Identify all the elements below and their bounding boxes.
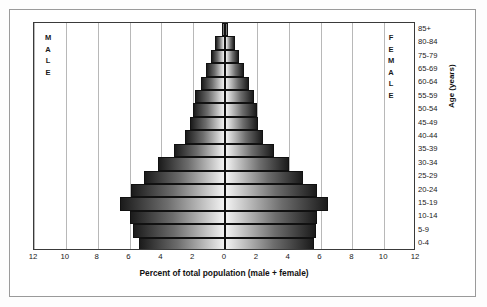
- bar-male: [144, 171, 225, 184]
- bar-female: [225, 90, 254, 103]
- female-side-label: FEMALE: [385, 32, 397, 101]
- bar-female: [225, 36, 235, 49]
- x-tick-label: 2: [254, 252, 258, 261]
- age-tick-label: 35-39: [418, 143, 437, 155]
- x-tick-label: 12: [411, 252, 420, 261]
- x-tick-label: 0: [222, 252, 226, 261]
- bar-row: [34, 63, 414, 76]
- x-tick-label: 2: [190, 252, 194, 261]
- age-tick-label: 5-9: [418, 224, 429, 236]
- bar-male: [131, 184, 225, 197]
- bar-male: [174, 144, 225, 157]
- bar-male: [215, 36, 225, 49]
- bar-male: [120, 197, 225, 210]
- bar-female: [225, 50, 239, 63]
- bar-row: [34, 50, 414, 63]
- bar-female: [225, 184, 317, 197]
- x-axis-title: Percent of total population (male + fema…: [33, 268, 415, 278]
- bar-row: [34, 130, 414, 143]
- age-tick-label: 30-34: [418, 157, 437, 169]
- x-tick-label: 10: [379, 252, 388, 261]
- y-axis-title: Age (years): [447, 64, 456, 108]
- female-letter: F: [385, 32, 397, 44]
- bar-row: [34, 238, 414, 250]
- bar-male: [139, 238, 225, 250]
- bar-female: [225, 224, 316, 237]
- age-axis-tick-labels: 85+80-8475-7965-6960-6455-5950-5445-4940…: [418, 22, 462, 250]
- bar-female: [225, 23, 228, 36]
- bar-row: [34, 157, 414, 170]
- bar-male: [195, 90, 225, 103]
- age-tick-label: 50-54: [418, 103, 437, 115]
- age-tick-label: 15-19: [418, 197, 437, 209]
- male-letter: A: [42, 44, 54, 56]
- bar-row: [34, 103, 414, 116]
- bar-row: [34, 184, 414, 197]
- age-tick-label: 80-84: [418, 36, 437, 48]
- bar-female: [225, 63, 244, 76]
- bar-female: [225, 197, 328, 210]
- bar-row: [34, 117, 414, 130]
- male-side-label: MALE: [42, 32, 54, 78]
- bar-male: [206, 63, 225, 76]
- female-letter: M: [385, 55, 397, 67]
- bar-row: [34, 224, 414, 237]
- x-tick-label: 6: [126, 252, 130, 261]
- male-letter: E: [42, 67, 54, 79]
- bar-row: [34, 144, 414, 157]
- x-axis-tick-labels: 12108642024681012: [33, 252, 415, 266]
- bar-female: [225, 77, 249, 90]
- female-letter: L: [385, 78, 397, 90]
- bar-male: [190, 117, 225, 130]
- bar-female: [225, 238, 314, 250]
- bar-male: [211, 50, 225, 63]
- age-tick-label: 40-44: [418, 130, 437, 142]
- female-letter: E: [385, 90, 397, 102]
- bar-female: [225, 130, 263, 143]
- chart-plot-area: [33, 22, 415, 250]
- bar-row: [34, 171, 414, 184]
- x-tick-label: 10: [60, 252, 69, 261]
- bar-male: [158, 157, 225, 170]
- population-pyramid-figure: MALE FEMALE 85+80-8475-7965-6960-6455-59…: [0, 0, 487, 307]
- bar-row: [34, 90, 414, 103]
- male-letter: L: [42, 55, 54, 67]
- bar-male: [201, 77, 225, 90]
- age-tick-label: 60-64: [418, 76, 437, 88]
- bar-female: [225, 103, 257, 116]
- bar-female: [225, 171, 303, 184]
- x-tick-label: 8: [94, 252, 98, 261]
- x-tick-label: 6: [317, 252, 321, 261]
- x-tick-label: 12: [29, 252, 38, 261]
- age-tick-label: 75-79: [418, 50, 437, 62]
- bar-row: [34, 77, 414, 90]
- age-tick-label: 0-4: [418, 237, 429, 249]
- bar-female: [225, 144, 274, 157]
- x-tick-label: 4: [158, 252, 162, 261]
- male-letter: M: [42, 32, 54, 44]
- x-tick-label: 8: [349, 252, 353, 261]
- bar-row: [34, 211, 414, 224]
- bar-female: [225, 157, 289, 170]
- bar-male: [185, 130, 225, 143]
- x-tick-label: 4: [285, 252, 289, 261]
- bar-male: [133, 224, 225, 237]
- bar-female: [225, 117, 258, 130]
- age-tick-label: 10-14: [418, 210, 437, 222]
- female-letter: A: [385, 67, 397, 79]
- age-tick-label: 65-69: [418, 63, 437, 75]
- bar-row: [34, 23, 414, 36]
- bar-female: [225, 211, 317, 224]
- age-tick-label: 55-59: [418, 90, 437, 102]
- bar-row: [34, 36, 414, 49]
- female-letter: E: [385, 44, 397, 56]
- age-tick-label: 25-29: [418, 170, 437, 182]
- bar-male: [130, 211, 226, 224]
- age-tick-label: 85+: [418, 23, 431, 35]
- age-tick-label: 20-24: [418, 184, 437, 196]
- bar-row: [34, 197, 414, 210]
- bar-male: [193, 103, 225, 116]
- age-tick-label: 45-49: [418, 117, 437, 129]
